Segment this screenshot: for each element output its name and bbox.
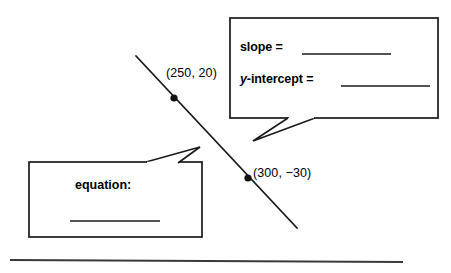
point-marker-1 bbox=[170, 94, 177, 101]
point-marker-2 bbox=[244, 174, 251, 181]
bottom-rule bbox=[10, 260, 403, 262]
slope-intercept-callout-box bbox=[230, 18, 438, 118]
slope-label: slope = bbox=[240, 41, 283, 54]
y-intercept-rest-text: -intercept = bbox=[247, 72, 314, 86]
worksheet-canvas: (250, 20) (300, −30) slope = y-intercept… bbox=[0, 0, 451, 273]
point-label-2: (300, −30) bbox=[253, 167, 311, 180]
point-label-1: (250, 20) bbox=[166, 67, 217, 80]
equation-callout-tail bbox=[146, 147, 200, 163]
diagram-vector-layer bbox=[0, 0, 451, 273]
equation-callout-box bbox=[29, 162, 202, 237]
y-intercept-label: y-intercept = bbox=[240, 73, 313, 86]
slope-callout-tail bbox=[253, 118, 315, 141]
y-intercept-italic-y: y bbox=[240, 72, 247, 86]
equation-label: equation: bbox=[75, 179, 131, 192]
